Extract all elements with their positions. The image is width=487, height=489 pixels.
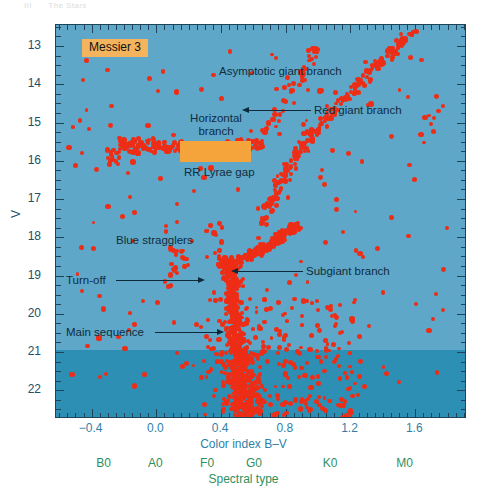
leader-line-turn-off [116,280,199,281]
y-axis-title: V [9,210,23,218]
y-tick-label-14: 14 [28,77,41,89]
x-axis-title: Color index B–V [0,437,487,451]
x-tick-label-4: 1.2 [341,421,358,435]
annotation-horizontal-branch: Horizontal branch [185,112,247,138]
annotation-rr-lyrae-gap: RR Lyrae gap [184,166,255,179]
x-tick-label-0: −0.4 [79,421,103,435]
annotation-turn-off: Turn-off [66,274,106,287]
y-tick-label-18: 18 [28,230,41,242]
annotation-blue-stragglers: Blue stragglers [116,234,193,247]
y-tick-label-19: 19 [28,269,41,281]
spectral-type-axis-title: Spectral type [0,472,487,486]
spectral-label-K0: K0 [323,456,338,470]
y-tick-label-21: 21 [28,345,41,357]
spectral-label-A0: A0 [148,456,163,470]
annotation-subgiant-branch: Subgiant branch [306,265,390,278]
leader-line-red-giant-branch [249,110,311,111]
y-tick-label-15: 15 [28,116,41,128]
plot-area[interactable]: Messier 3 Asymptotic giant branch Horizo… [55,24,466,418]
annotation-asymptotic-giant-branch: Asymptotic giant branch [219,65,342,78]
annotations-layer: Messier 3 Asymptotic giant branch Horizo… [56,25,465,417]
arrowhead-subgiant-branch [231,268,238,274]
x-tick-label-3: 0.8 [276,421,293,435]
arrowhead-turn-off [198,277,205,283]
annotation-main-sequence: Main sequence [66,326,144,339]
spectral-label-F0: F0 [200,456,214,470]
y-axis-tick-labels: 13141516171819202122 [0,24,50,418]
x-axis-tick-labels: −0.40.00.40.81.21.6 [55,421,466,437]
annotation-red-giant-branch: Red giant branch [314,104,402,117]
x-tick-label-5: 1.6 [406,421,423,435]
arrowhead-red-giant-branch [242,107,249,113]
y-tick-label-20: 20 [28,307,41,319]
spectral-type-tick-labels: B0A0F0G0K0M0 [55,456,466,472]
y-tick-label-16: 16 [28,154,41,166]
arrowhead-main-sequence [217,329,224,335]
spectral-label-G0: G0 [246,456,262,470]
x-tick-label-1: 0.0 [147,421,164,435]
color-magnitude-diagram-figure: 13141516171819202122 V Messier 3 Asympto… [0,0,487,489]
x-tick-label-2: 0.4 [212,421,229,435]
spectral-label-B0: B0 [96,456,111,470]
spectral-label-M0: M0 [396,456,413,470]
annotation-horizontal-branch-line2: branch [198,125,233,137]
annotation-horizontal-branch-line1: Horizontal [190,112,242,124]
leader-line-subgiant-branch [238,271,303,272]
y-tick-label-13: 13 [28,39,41,51]
horizontal-branch-highlight-box [180,141,251,162]
leader-line-main-sequence [155,332,218,333]
cluster-name-badge: Messier 3 [82,39,148,57]
y-tick-label-17: 17 [28,192,41,204]
y-tick-label-22: 22 [28,383,41,395]
